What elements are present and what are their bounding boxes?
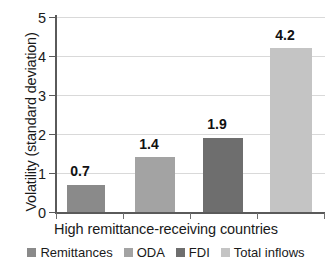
x-tick-mark [190,213,191,219]
bar-value-label-remittances: 0.7 [51,164,109,178]
bar-value-label-oda: 1.4 [120,137,178,151]
bar-fdi[interactable] [203,138,243,212]
bar-remittances[interactable] [67,185,105,212]
gridline [56,17,325,18]
legend-label: FDI [189,246,210,259]
x-tick-mark [324,213,325,219]
bar-oda[interactable] [135,157,175,212]
legend-item-fdi[interactable]: FDI [176,246,210,259]
chart-figure: Volatility (standard deviation) 5 4 3 2 … [0,0,332,268]
y-tick-label: 2 [28,128,46,143]
legend-swatch-icon [124,248,133,257]
legend-label: Remittances [40,246,112,259]
plot-area [56,17,325,212]
legend-swatch-icon [221,248,230,257]
y-tick-label: 1 [28,167,46,182]
x-tick-mark [123,213,124,219]
legend-item-remittances[interactable]: Remittances [27,246,112,259]
x-tick-mark [257,213,258,219]
legend-label: Total inflows [234,246,305,259]
legend-item-oda[interactable]: ODA [124,246,165,259]
x-tick-mark [56,213,57,219]
legend-item-total-inflows[interactable]: Total inflows [221,246,305,259]
bar-value-label-fdi: 1.9 [188,117,246,131]
y-axis-line [55,15,57,214]
y-tick-label: 0 [28,206,46,221]
y-tick-label: 3 [28,89,46,104]
bar-value-label-total-inflows: 4.2 [256,28,314,42]
legend-swatch-icon [27,248,36,257]
chart-legend: Remittances ODA FDI Total inflows [0,246,332,259]
legend-swatch-icon [176,248,185,257]
y-tick-label: 4 [28,50,46,65]
legend-label: ODA [137,246,165,259]
x-axis-title: High remittance-receiving countries [0,221,332,237]
bar-total-inflows[interactable] [270,48,312,212]
y-tick-label: 5 [28,11,46,26]
